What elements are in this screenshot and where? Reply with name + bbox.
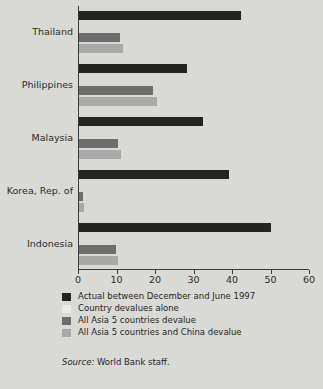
legend-swatch bbox=[62, 329, 71, 337]
plot-area bbox=[78, 6, 309, 270]
category-label: Malaysia bbox=[31, 132, 73, 143]
x-tick-label: 30 bbox=[187, 274, 199, 285]
x-tick-label: 0 bbox=[75, 274, 81, 285]
source-prefix: Source: bbox=[62, 357, 94, 367]
bar-group bbox=[78, 170, 309, 212]
legend-swatch bbox=[62, 317, 71, 325]
source-text: World Bank staff. bbox=[97, 357, 170, 367]
legend-label: All Asia 5 countries and China devalue bbox=[78, 327, 242, 338]
y-axis-line bbox=[78, 6, 79, 270]
bar bbox=[78, 150, 121, 159]
bar bbox=[78, 245, 116, 254]
x-tick-label: 20 bbox=[149, 274, 161, 285]
bar bbox=[78, 223, 271, 232]
bar bbox=[78, 97, 157, 106]
legend-label: All Asia 5 countries devalue bbox=[78, 315, 196, 326]
x-tick-label: 60 bbox=[303, 274, 315, 285]
bar bbox=[78, 11, 241, 20]
x-tick-label: 40 bbox=[226, 274, 238, 285]
legend-swatch bbox=[62, 305, 71, 313]
legend-item: Actual between December and June 1997 bbox=[62, 291, 312, 303]
bar bbox=[78, 117, 203, 126]
category-label: Philippines bbox=[22, 79, 73, 90]
legend-label: Actual between December and June 1997 bbox=[78, 291, 255, 302]
category-label: Korea, Rep. of bbox=[7, 185, 73, 196]
chart-figure: ThailandPhilippinesMalaysiaKorea, Rep. o… bbox=[0, 0, 323, 389]
bar bbox=[78, 86, 153, 95]
category-label: Indonesia bbox=[27, 238, 73, 249]
x-tick-label: 10 bbox=[110, 274, 122, 285]
bar bbox=[78, 44, 123, 53]
legend-swatch bbox=[62, 293, 71, 301]
legend-item: Country devalues alone bbox=[62, 303, 312, 315]
chart-legend: Actual between December and June 1997Cou… bbox=[62, 291, 312, 339]
bar-group bbox=[78, 11, 309, 53]
bar-group bbox=[78, 64, 309, 106]
bar bbox=[78, 33, 120, 42]
bar bbox=[78, 170, 229, 179]
x-tick-label: 50 bbox=[264, 274, 276, 285]
source-note: Source: World Bank staff. bbox=[62, 357, 170, 367]
legend-item: All Asia 5 countries devalue bbox=[62, 315, 312, 327]
legend-label: Country devalues alone bbox=[78, 303, 179, 314]
bar bbox=[78, 64, 187, 73]
bar bbox=[78, 256, 118, 265]
bar bbox=[78, 139, 118, 148]
category-axis-labels: ThailandPhilippinesMalaysiaKorea, Rep. o… bbox=[0, 0, 73, 275]
bar-group bbox=[78, 223, 309, 265]
bar-group bbox=[78, 117, 309, 159]
category-label: Thailand bbox=[32, 26, 73, 37]
legend-item: All Asia 5 countries and China devalue bbox=[62, 327, 312, 339]
